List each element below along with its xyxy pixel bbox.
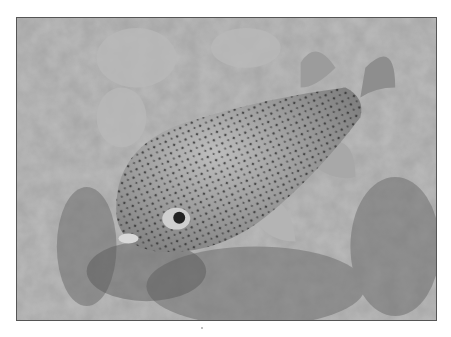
photo-frame	[16, 17, 437, 321]
fish-photo	[17, 18, 436, 320]
page-mark	[201, 327, 203, 329]
